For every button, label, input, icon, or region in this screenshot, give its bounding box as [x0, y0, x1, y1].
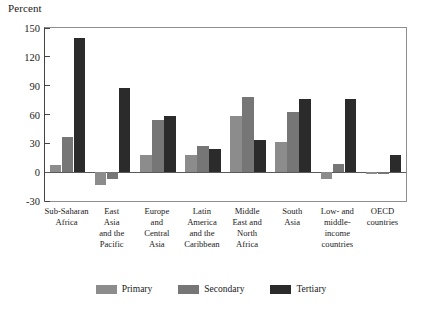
- plot-frame: 1501209060300-30: [44, 27, 407, 202]
- bar-tertiary: [164, 116, 176, 172]
- legend-item-secondary[interactable]: Secondary: [178, 284, 244, 294]
- x-axis-category-label: OECD countries: [360, 206, 405, 228]
- legend-swatch-icon: [96, 285, 117, 294]
- x-axis-category-label: Latin America and the Caribbean: [179, 206, 224, 250]
- bar-primary: [95, 172, 107, 184]
- x-axis-category-label: Sub-Saharan Africa: [44, 206, 89, 228]
- bar-primary: [321, 172, 333, 179]
- y-tick-label: 30: [30, 138, 41, 149]
- legend-swatch-icon: [178, 285, 199, 294]
- bar-group: [180, 28, 225, 201]
- plot-area: [45, 28, 406, 201]
- y-tick-label: 120: [24, 51, 40, 62]
- bar-secondary: [62, 137, 74, 173]
- x-axis-category-label: South Asia: [270, 206, 315, 228]
- bar-tertiary: [345, 99, 357, 172]
- legend-swatch-icon: [270, 285, 291, 294]
- bar-group: [45, 28, 90, 201]
- bar-group: [361, 28, 406, 201]
- bar-primary: [185, 155, 197, 172]
- bar-secondary: [333, 164, 345, 173]
- bar-primary: [140, 155, 152, 172]
- bar-primary: [230, 116, 242, 172]
- bar-primary: [366, 172, 378, 174]
- y-tick-label: 90: [30, 80, 41, 91]
- x-axis-category-label: East Asia and the Pacific: [89, 206, 134, 250]
- legend-label: Secondary: [204, 284, 244, 294]
- bar-secondary: [287, 112, 299, 173]
- bar-primary: [50, 165, 62, 172]
- bar-secondary: [107, 172, 119, 179]
- bar-chart: Percent 1501209060300-30 Sub-Saharan Afr…: [0, 0, 422, 312]
- legend-label: Tertiary: [296, 284, 326, 294]
- legend-item-primary[interactable]: Primary: [96, 284, 153, 294]
- bar-group: [271, 28, 316, 201]
- y-tick-label: 60: [30, 109, 41, 120]
- bar-tertiary: [209, 149, 221, 172]
- bar-secondary: [378, 172, 390, 174]
- x-axis-labels: Sub-Saharan AfricaEast Asia and the Paci…: [44, 206, 407, 268]
- bar-secondary: [242, 97, 254, 172]
- bar-tertiary: [299, 99, 311, 172]
- bar-group: [90, 28, 135, 201]
- x-axis-category-label: Low- and middle- income countries: [315, 206, 360, 250]
- x-axis-category-label: Middle East and North Africa: [225, 206, 270, 250]
- bar-group: [316, 28, 361, 201]
- x-axis-category-label: Europe and Central Asia: [134, 206, 179, 250]
- y-axis-title: Percent: [8, 2, 42, 14]
- y-tick-label: -30: [26, 196, 40, 207]
- bar-secondary: [152, 120, 164, 172]
- legend-label: Primary: [122, 284, 153, 294]
- bar-group: [226, 28, 271, 201]
- bar-tertiary: [119, 88, 131, 173]
- legend-item-tertiary[interactable]: Tertiary: [270, 284, 326, 294]
- chart-legend: PrimarySecondaryTertiary: [0, 284, 422, 294]
- bar-tertiary: [74, 38, 86, 173]
- y-tick-label: 150: [24, 23, 40, 34]
- y-tick-label: 0: [35, 167, 40, 178]
- bar-group: [135, 28, 180, 201]
- bar-tertiary: [254, 140, 266, 172]
- bar-tertiary: [390, 155, 402, 172]
- bar-secondary: [197, 146, 209, 172]
- bar-primary: [275, 142, 287, 172]
